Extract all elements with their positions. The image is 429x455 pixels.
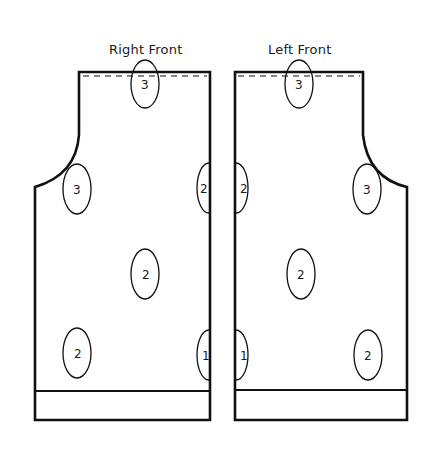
marker-label: 3: [73, 183, 81, 197]
left-front-piece: [235, 72, 407, 420]
left-front-marker-labels: 3 2 3 2 1 2: [240, 78, 372, 363]
marker-label: 2: [142, 268, 150, 282]
right-front-markers: [63, 60, 221, 380]
marker-label: 2: [74, 347, 82, 361]
marker-label: 2: [240, 182, 248, 196]
pattern-diagram: 3 3 2 2 2 1 3 2 3 2 1 2: [0, 0, 429, 455]
left-front-outline: [235, 72, 407, 420]
marker-label: 3: [363, 183, 371, 197]
right-front-outline: [35, 72, 210, 420]
marker-label: 1: [202, 349, 210, 363]
marker-label: 3: [141, 78, 149, 92]
right-front-marker-labels: 3 3 2 2 2 1: [73, 78, 210, 363]
marker-label: 2: [200, 182, 208, 196]
right-front-piece: [35, 72, 210, 420]
marker-label: 2: [297, 268, 305, 282]
left-front-markers: [224, 60, 382, 380]
marker-label: 3: [295, 78, 303, 92]
marker-label: 2: [364, 349, 372, 363]
marker-label: 1: [240, 349, 248, 363]
